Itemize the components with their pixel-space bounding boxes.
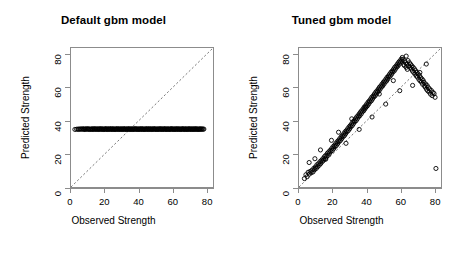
x-axis: 020406080 bbox=[298, 188, 442, 189]
data-point bbox=[384, 102, 388, 106]
reference-line-identity bbox=[71, 48, 213, 187]
y-axis-tick-label: 60 bbox=[280, 87, 291, 98]
x-axis-tick bbox=[207, 188, 208, 193]
x-axis-tick bbox=[298, 188, 299, 193]
y-axis-tick-label: 20 bbox=[280, 155, 291, 166]
x-axis-title: Observed Strength bbox=[0, 215, 227, 226]
data-points bbox=[73, 127, 206, 132]
y-axis-title: Predicted Strength bbox=[18, 47, 32, 188]
plot-area bbox=[298, 47, 442, 188]
x-axis-tick-label: 60 bbox=[168, 196, 179, 207]
x-axis-tick bbox=[173, 188, 174, 193]
x-axis-tick-label: 60 bbox=[396, 196, 407, 207]
data-point bbox=[404, 54, 408, 58]
panel-tuned-gbm: Tuned gbm model Predicted Strength 02040… bbox=[228, 0, 455, 259]
panel-title: Tuned gbm model bbox=[228, 14, 455, 26]
y-axis-tick-label: 0 bbox=[280, 191, 291, 196]
x-axis-tick bbox=[332, 188, 333, 193]
data-point bbox=[318, 148, 322, 152]
data-point bbox=[344, 141, 348, 145]
x-axis-tick bbox=[70, 188, 71, 193]
y-axis-tick-label: 80 bbox=[52, 54, 63, 65]
x-axis-tick-label: 40 bbox=[361, 196, 372, 207]
y-axis-tick-label: 0 bbox=[52, 191, 63, 196]
y-axis-tick-label: 40 bbox=[280, 121, 291, 132]
x-axis-tick-label: 20 bbox=[327, 196, 338, 207]
panel-title: Default gbm model bbox=[0, 14, 227, 26]
scatter-canvas bbox=[71, 48, 213, 187]
x-axis-tick-label: 0 bbox=[67, 196, 72, 207]
data-point bbox=[336, 130, 340, 134]
y-axis-tick-label: 80 bbox=[280, 54, 291, 65]
data-point bbox=[307, 160, 311, 164]
x-axis-tick-label: 0 bbox=[295, 196, 300, 207]
y-axis-tick-label: 60 bbox=[52, 87, 63, 98]
x-axis-tick-label: 20 bbox=[99, 196, 110, 207]
y-axis-title: Predicted Strength bbox=[246, 47, 260, 188]
x-axis-title: Observed Strength bbox=[228, 215, 455, 226]
data-point bbox=[411, 83, 415, 87]
x-axis-tick-label: 40 bbox=[133, 196, 144, 207]
data-point bbox=[398, 89, 402, 93]
y-axis-tick-label: 20 bbox=[52, 155, 63, 166]
data-point bbox=[313, 157, 317, 161]
data-points bbox=[302, 54, 438, 181]
scatter-canvas bbox=[299, 48, 441, 187]
x-axis-tick bbox=[401, 188, 402, 193]
x-axis: 020406080 bbox=[70, 188, 214, 189]
x-axis-tick-label: 80 bbox=[430, 196, 441, 207]
data-point bbox=[329, 138, 333, 142]
x-axis-tick bbox=[139, 188, 140, 193]
x-axis-tick-label: 80 bbox=[202, 196, 213, 207]
x-axis-tick bbox=[367, 188, 368, 193]
data-point bbox=[391, 79, 395, 83]
y-axis-title-text: Predicted Strength bbox=[20, 76, 31, 159]
x-axis-tick bbox=[104, 188, 105, 193]
figure-container: Default gbm model Predicted Strength 020… bbox=[0, 0, 455, 259]
y-axis-tick-label: 40 bbox=[52, 121, 63, 132]
data-point bbox=[434, 166, 438, 170]
plot-area bbox=[70, 47, 214, 188]
panel-default-gbm: Default gbm model Predicted Strength 020… bbox=[0, 0, 227, 259]
y-axis-title-text: Predicted Strength bbox=[248, 76, 259, 159]
x-axis-tick bbox=[435, 188, 436, 193]
